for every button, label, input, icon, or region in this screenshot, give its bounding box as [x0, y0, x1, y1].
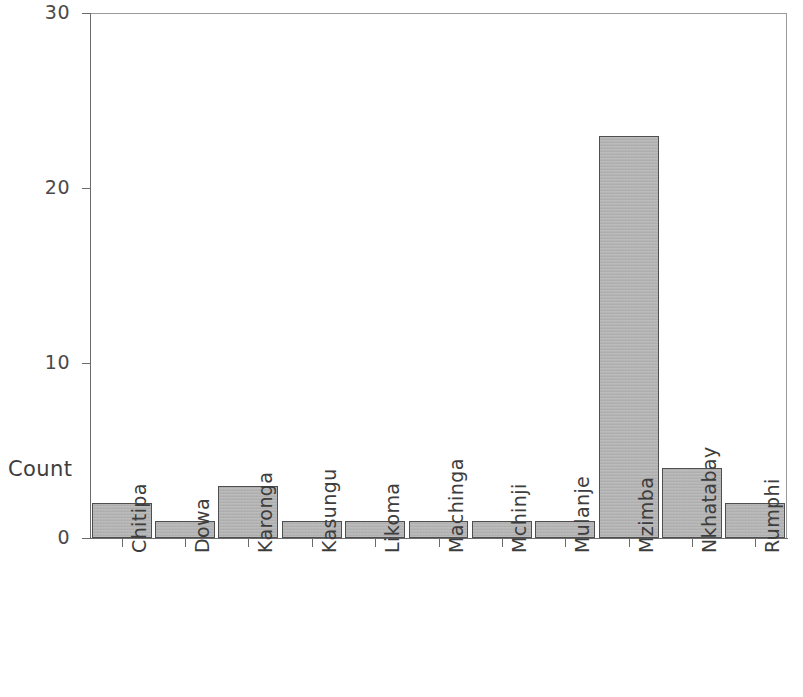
x-axis-tick	[629, 539, 630, 547]
x-axis-tick	[122, 539, 123, 547]
x-axis-tick	[502, 539, 503, 547]
y-axis-line	[90, 13, 91, 539]
x-axis-tick-label: Mulanje	[573, 403, 592, 553]
y-axis-tick-label: 30	[24, 3, 70, 22]
y-axis-tick-label: 10	[24, 353, 70, 372]
x-axis-tick	[375, 539, 376, 547]
x-axis-tick-label: Rumphi	[763, 403, 782, 553]
x-axis-tick	[185, 539, 186, 547]
y-axis-tick	[82, 188, 91, 189]
x-axis-tick	[692, 539, 693, 547]
x-axis-tick-label: Mchinji	[510, 403, 529, 553]
x-axis-tick-label: Nkhatabay	[700, 403, 719, 553]
x-axis-tick-label: Kasungu	[320, 403, 339, 553]
x-axis-tick	[755, 539, 756, 547]
x-axis-tick-label: Karonga	[256, 403, 275, 553]
x-axis-tick	[312, 539, 313, 547]
y-axis-tick	[82, 363, 91, 364]
x-axis-tick-label: Chitipa	[130, 403, 149, 553]
y-axis-tick-label: 20	[24, 178, 70, 197]
y-axis-tick	[82, 13, 91, 14]
x-axis-tick-label: Machinga	[447, 403, 466, 553]
x-axis-tick-label: Dowa	[193, 403, 212, 553]
y-axis-tick	[82, 538, 91, 539]
y-axis-title: Count	[8, 459, 72, 480]
x-axis-tick	[248, 539, 249, 547]
x-axis-tick	[565, 539, 566, 547]
x-axis-tick	[439, 539, 440, 547]
y-axis-tick-label: 0	[24, 528, 70, 547]
x-axis-tick-label: Likoma	[383, 403, 402, 553]
x-axis-tick-label: Mzimba	[637, 403, 656, 553]
bar-chart: 0102030 ChitipaDowaKarongaKasunguLikomaM…	[0, 0, 803, 697]
